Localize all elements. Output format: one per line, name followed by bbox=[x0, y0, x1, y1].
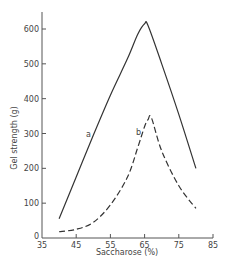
y-axis-title: Gel strength (g) bbox=[10, 106, 19, 169]
x-axis-title: Saccharose (%) bbox=[96, 248, 158, 257]
axes: 0100200300400500600354555657585 bbox=[24, 12, 218, 250]
curve-b bbox=[59, 116, 196, 232]
x-tick-label: 35 bbox=[37, 241, 47, 250]
y-tick-label: 500 bbox=[24, 60, 39, 69]
curve-label-a: a bbox=[86, 130, 91, 139]
x-tick-label: 85 bbox=[208, 241, 218, 250]
y-tick-label: 200 bbox=[24, 164, 39, 173]
curve-label-b: b bbox=[136, 128, 141, 137]
y-tick-label: 0 bbox=[34, 232, 39, 241]
x-tick-label: 45 bbox=[71, 241, 81, 250]
gel-strength-chart: 0100200300400500600354555657585 a b Sacc… bbox=[0, 0, 234, 265]
y-tick-label: 600 bbox=[24, 25, 39, 34]
y-tick-label: 300 bbox=[24, 130, 39, 139]
y-tick-label: 400 bbox=[24, 95, 39, 104]
curves bbox=[59, 22, 196, 232]
curve-a bbox=[59, 22, 196, 219]
x-tick-label: 75 bbox=[174, 241, 184, 250]
y-tick-label: 100 bbox=[24, 199, 39, 208]
